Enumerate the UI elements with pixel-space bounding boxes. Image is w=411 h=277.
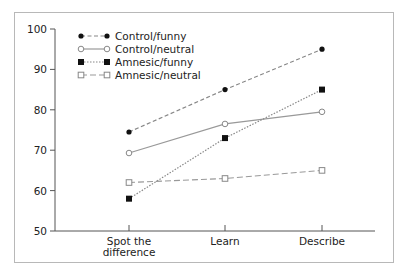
data-point [319, 47, 324, 52]
data-point [319, 168, 325, 174]
y-tick-label: 50 [34, 225, 47, 237]
legend-marker [104, 59, 110, 65]
series-amnesic-neutral [126, 168, 325, 186]
legend-marker [78, 33, 83, 38]
x-tick-label: Describe [299, 235, 345, 247]
data-point [126, 150, 132, 156]
legend-marker [78, 46, 84, 52]
y-tick-label: 90 [34, 63, 47, 75]
legend-marker [78, 59, 84, 65]
data-point [222, 121, 228, 127]
data-point [319, 109, 325, 115]
legend-marker [78, 72, 84, 78]
data-point [319, 87, 325, 93]
legend-label: Control/neutral [115, 43, 194, 55]
y-tick-label: 100 [27, 23, 47, 35]
legend-label: Control/funny [115, 30, 186, 42]
series-control-neutral [126, 109, 325, 156]
y-tick-label: 60 [34, 185, 47, 197]
legend-label: Amnesic/neutral [115, 69, 201, 81]
legend-marker [104, 72, 110, 78]
data-point [126, 196, 132, 202]
data-point [126, 180, 132, 186]
legend-marker [104, 46, 110, 52]
legend: Control/funnyControl/neutralAmnesic/funn… [78, 30, 201, 81]
legend-marker [104, 33, 109, 38]
line-chart: 5060708090100Spot thedifferenceLearnDesc… [0, 0, 411, 277]
legend-label: Amnesic/funny [115, 56, 193, 68]
x-tick-label: Learn [210, 235, 239, 247]
data-point [222, 87, 227, 92]
series-amnesic-funny [126, 87, 325, 202]
data-point [222, 176, 228, 182]
data-point [222, 135, 228, 141]
data-point [126, 129, 131, 134]
x-tick-label: difference [103, 246, 156, 258]
series-line [129, 112, 322, 153]
y-tick-label: 70 [34, 144, 47, 156]
y-tick-label: 80 [34, 104, 47, 116]
